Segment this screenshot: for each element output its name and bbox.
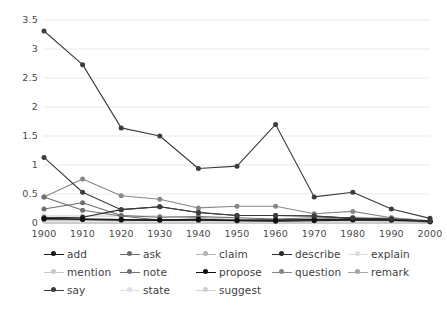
legend-item-say[interactable]: say <box>44 282 120 298</box>
legend-item-note[interactable]: note <box>120 264 196 280</box>
legend-item-describe[interactable]: describe <box>272 246 348 262</box>
data-point <box>273 122 278 127</box>
data-point <box>196 210 201 215</box>
y-axis-tick-label: 3 <box>6 43 38 54</box>
data-point <box>157 218 162 223</box>
y-axis-tick-label: 2 <box>6 101 38 112</box>
data-point <box>80 216 85 221</box>
figure-caption <box>0 300 438 310</box>
data-point <box>235 164 240 169</box>
legend-item-claim[interactable]: claim <box>196 246 272 262</box>
data-point <box>235 213 240 218</box>
data-point <box>235 204 240 209</box>
x-axis-tick-label: 1930 <box>138 228 182 239</box>
data-point <box>350 216 355 221</box>
data-point <box>80 176 85 181</box>
data-point <box>80 200 85 205</box>
series-line <box>44 31 430 218</box>
data-point <box>42 207 47 212</box>
legend-marker-icon <box>272 267 292 277</box>
data-point <box>273 218 278 223</box>
line-chart-svg <box>0 0 438 245</box>
legend-item-state[interactable]: state <box>120 282 196 298</box>
legend-item-add[interactable]: add <box>44 246 120 262</box>
data-point <box>80 190 85 195</box>
data-point <box>196 218 201 223</box>
legend-label: propose <box>219 266 262 278</box>
y-axis-tick-label: 1.5 <box>6 130 38 141</box>
data-point <box>42 216 47 221</box>
legend-marker-icon <box>120 285 140 295</box>
series-say <box>42 29 433 221</box>
legend-marker-icon <box>348 267 368 277</box>
legend-label: describe <box>295 248 341 260</box>
legend-marker-icon <box>44 249 64 259</box>
legend-marker-icon <box>196 285 216 295</box>
data-point <box>157 134 162 139</box>
legend-item-remark[interactable]: remark <box>348 264 424 280</box>
data-point <box>273 213 278 218</box>
data-point <box>157 197 162 202</box>
legend-item-ask[interactable]: ask <box>120 246 196 262</box>
data-point <box>312 194 317 199</box>
x-axis-tick-label: 1970 <box>292 228 336 239</box>
x-axis-tick-label: 1950 <box>215 228 259 239</box>
legend-item-propose[interactable]: propose <box>196 264 272 280</box>
legend-marker-icon <box>348 249 368 259</box>
legend-label: suggest <box>219 284 261 296</box>
y-axis-tick-label: 2.5 <box>6 72 38 83</box>
data-point <box>119 125 124 130</box>
x-axis-tick-label: 1910 <box>61 228 105 239</box>
legend-item-explain[interactable]: explain <box>348 246 424 262</box>
x-axis-tick-label: 1980 <box>331 228 375 239</box>
data-point <box>196 205 201 210</box>
y-axis-tick-label: 1 <box>6 159 38 170</box>
data-point <box>312 214 317 219</box>
data-point <box>273 204 278 209</box>
legend-marker-icon <box>196 249 216 259</box>
legend-marker-icon <box>196 267 216 277</box>
legend-item-question[interactable]: question <box>272 264 348 280</box>
data-point <box>350 209 355 214</box>
legend-marker-icon <box>44 267 64 277</box>
data-point <box>42 29 47 34</box>
legend-marker-icon <box>120 249 140 259</box>
legend-label: state <box>143 284 170 296</box>
x-axis-tick-label: 1990 <box>369 228 413 239</box>
legend-label: question <box>295 266 341 278</box>
x-axis-tick-label: 1920 <box>99 228 143 239</box>
y-axis-tick-label: 3.5 <box>6 14 38 25</box>
legend-label: ask <box>143 248 161 260</box>
legend-marker-icon <box>44 285 64 295</box>
data-point <box>119 217 124 222</box>
data-point <box>389 216 394 221</box>
chart-plot-area: 00.511.522.533.5190019101920193019401950… <box>0 0 438 245</box>
legend-marker-icon <box>272 249 292 259</box>
x-axis-tick-label: 1960 <box>254 228 298 239</box>
legend-label: add <box>67 248 87 260</box>
data-point <box>80 62 85 67</box>
data-point <box>428 219 433 224</box>
legend-item-suggest[interactable]: suggest <box>196 282 272 298</box>
x-axis-tick-label: 1940 <box>176 228 220 239</box>
x-axis-tick-label: 2000 <box>408 228 447 239</box>
data-point <box>157 204 162 209</box>
data-point <box>42 194 47 199</box>
data-point <box>42 155 47 160</box>
legend-label: note <box>143 266 167 278</box>
data-point <box>119 207 124 212</box>
legend-item-mention[interactable]: mention <box>44 264 120 280</box>
legend-label: mention <box>67 266 111 278</box>
legend-row: addaskclaimdescribeexplain <box>44 246 438 262</box>
x-axis-tick-label: 1900 <box>22 228 66 239</box>
legend-marker-icon <box>120 267 140 277</box>
legend-label: say <box>67 284 85 296</box>
data-point <box>196 166 201 171</box>
legend-label: claim <box>219 248 248 260</box>
data-point <box>350 190 355 195</box>
data-point <box>80 208 85 213</box>
chart-legend: addaskclaimdescribeexplainmentionnotepro… <box>0 246 438 298</box>
data-point <box>119 193 124 198</box>
data-point <box>389 207 394 212</box>
